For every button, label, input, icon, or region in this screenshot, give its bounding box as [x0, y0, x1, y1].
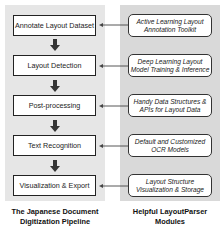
module-line2: OCR Models [151, 146, 189, 154]
module-line2: Visualization & Storage [136, 186, 204, 194]
module-annotation-toolkit: Active Learning Layout Annotation Toolki… [128, 14, 212, 37]
down-arrow-icon [50, 120, 60, 132]
down-arrow-icon [50, 39, 60, 51]
module-ocr-models: Default and Customized OCR Models [128, 134, 212, 157]
module-line1: Handy Data Structures & [134, 98, 207, 106]
module-data-structures: Handy Data Structures & APIs for Layout … [128, 94, 212, 117]
module-visualization-storage: Layout Structure Visualization & Storage [128, 174, 212, 197]
left-arrow-icon [98, 183, 128, 189]
stage-layout-detection: Layout Detection [13, 55, 96, 76]
left-arrow-icon [98, 103, 128, 109]
caption-line2: Digitization Pipeline [0, 217, 110, 227]
module-line1: Layout Structure [146, 178, 194, 186]
module-line2: APIs for Layout Data [140, 106, 201, 114]
stage-text-recognition: Text Recognition [13, 135, 96, 156]
caption-line1: The Japanese Document [0, 207, 110, 217]
left-arrow-icon [98, 143, 128, 149]
module-line2: Model Training & Inference [131, 66, 210, 74]
module-line1: Default and Customized [135, 138, 205, 146]
pipeline-caption: The Japanese Document Digitization Pipel… [0, 207, 110, 227]
caption-line1: Helpful LayoutParser [115, 207, 224, 217]
module-line1: Active Learning Layout [136, 18, 203, 26]
module-model-training: Deep Learning Layout Model Training & In… [128, 54, 212, 77]
down-arrow-icon [50, 80, 60, 92]
caption-line2: Modules [115, 217, 224, 227]
stage-annotate-layout-dataset: Annotate Layout Dataset [13, 15, 96, 36]
stage-post-processing: Post-processing [13, 95, 96, 116]
left-arrow-icon [98, 63, 128, 69]
stage-visualization-export: Visualization & Export [13, 175, 96, 196]
left-arrow-icon [98, 22, 128, 28]
module-line2: Annotation Toolkit [144, 26, 196, 34]
down-arrow-icon [50, 160, 60, 172]
modules-caption: Helpful LayoutParser Modules [115, 207, 224, 227]
module-line1: Deep Learning Layout [138, 58, 203, 66]
